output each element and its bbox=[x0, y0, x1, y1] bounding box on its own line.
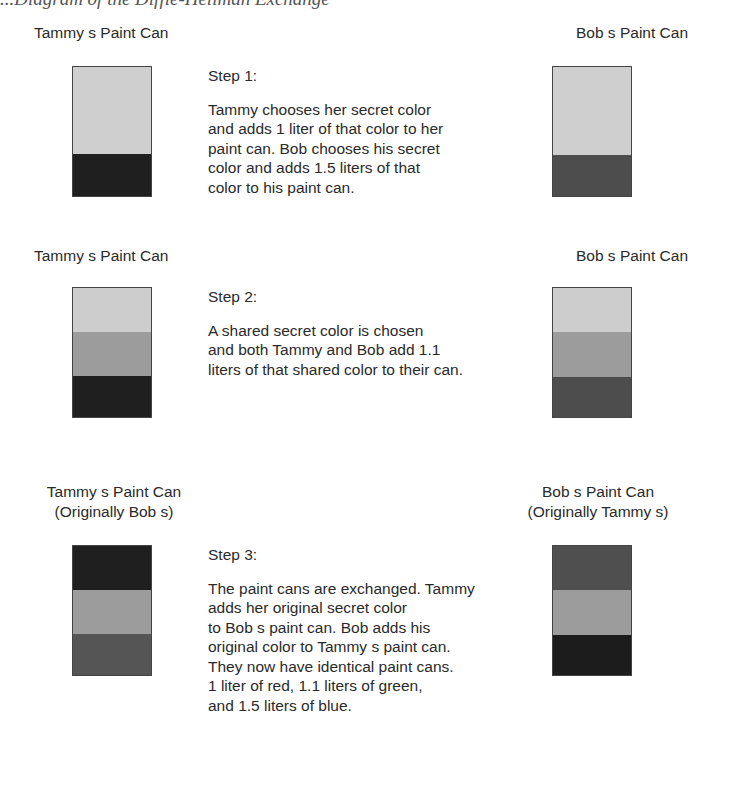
tammy-can-label: Tammy s Paint Can bbox=[22, 482, 206, 501]
shared-color-layer bbox=[73, 332, 151, 376]
tammy-secret-color-layer bbox=[73, 154, 151, 196]
bob-paint-can bbox=[552, 66, 632, 197]
bob-secret-color-layer bbox=[553, 377, 631, 417]
bob-can-sublabel: (Originally Tammy s) bbox=[498, 502, 698, 521]
bob-secret-color-layer bbox=[73, 634, 151, 675]
tammy-secret-color-layer bbox=[553, 635, 631, 675]
step-body: The paint cans are exchanged. Tammy adds… bbox=[208, 579, 475, 716]
light-layer bbox=[553, 288, 631, 332]
bob-secret-color-layer bbox=[553, 546, 631, 590]
tammy-can-sublabel: (Originally Bob s) bbox=[22, 502, 206, 521]
figure-title: ...Diagram of the Diffie-Hellman Exchang… bbox=[0, 0, 729, 10]
bob-secret-color-layer bbox=[553, 155, 631, 196]
bob-can-label: Bob s Paint Can bbox=[496, 23, 688, 42]
step-heading: Step 1: bbox=[208, 66, 443, 86]
bob-can-label: Bob s Paint Can bbox=[498, 482, 698, 501]
step-description: Step 3: The paint cans are exchanged. Ta… bbox=[208, 545, 475, 715]
step-description: Step 2: A shared secret color is chosen … bbox=[208, 287, 463, 379]
tammy-can-label: Tammy s Paint Can bbox=[34, 23, 194, 42]
shared-color-layer bbox=[553, 332, 631, 377]
step-body: Tammy chooses her secret color and adds … bbox=[208, 100, 443, 198]
tammy-secret-color-layer bbox=[73, 546, 151, 590]
tammy-paint-can bbox=[72, 545, 152, 676]
light-layer bbox=[73, 67, 151, 154]
tammy-secret-color-layer bbox=[73, 376, 151, 417]
step-heading: Step 3: bbox=[208, 545, 475, 565]
light-layer bbox=[73, 288, 151, 332]
bob-can-label: Bob s Paint Can bbox=[496, 246, 688, 265]
tammy-paint-can bbox=[72, 66, 152, 197]
tammy-can-label: Tammy s Paint Can bbox=[34, 246, 194, 265]
bob-paint-can bbox=[552, 287, 632, 418]
shared-color-layer bbox=[553, 590, 631, 635]
step-description: Step 1: Tammy chooses her secret color a… bbox=[208, 66, 443, 197]
bob-paint-can bbox=[552, 545, 632, 676]
shared-color-layer bbox=[73, 590, 151, 634]
tammy-paint-can bbox=[72, 287, 152, 418]
light-layer bbox=[553, 67, 631, 155]
step-body: A shared secret color is chosen and both… bbox=[208, 321, 463, 380]
step-heading: Step 2: bbox=[208, 287, 463, 307]
